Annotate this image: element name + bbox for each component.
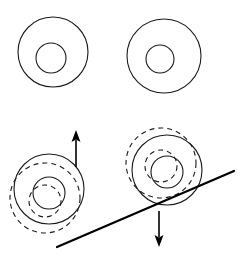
up-arrow [72,130,81,167]
bottom-left-inner-circle [33,177,65,209]
top-right-outer-circle [127,19,201,93]
top-right-annulus [127,19,201,93]
top-left-inner-circle [36,43,66,73]
top-left-outer-circle [18,17,88,87]
down-arrow [155,211,164,247]
bottom-left-outer-circle [14,154,84,224]
bottom-right-inner-ghost-circle [145,150,177,182]
bottom-left-annulus [10,154,84,233]
top-left-annulus [18,17,88,87]
bottom-right-inner-circle [151,156,183,188]
top-right-inner-circle [146,45,174,73]
bottom-left-outer-ghost-circle [10,163,80,233]
bottom-right-outer-circle [132,135,202,205]
bottom-right-annulus [126,128,202,205]
diagram-canvas [0,0,245,256]
